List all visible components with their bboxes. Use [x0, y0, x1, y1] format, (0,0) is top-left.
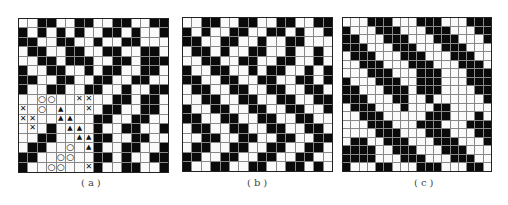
black-cell: [324, 66, 332, 75]
white-cell: [57, 19, 65, 27]
black-cell: [141, 47, 149, 55]
black-cell: [442, 104, 449, 112]
white-cell: [277, 47, 285, 56]
white-cell: [221, 28, 229, 37]
black-cell: [376, 78, 383, 86]
white-cell: [314, 153, 322, 162]
white-cell: [442, 86, 449, 94]
black-cell: [75, 19, 83, 27]
black-cell: [417, 69, 424, 77]
white-cell: [192, 28, 200, 37]
white-cell: [239, 37, 247, 46]
black-cell: [459, 44, 466, 52]
cross-marker-icon: ✕: [19, 105, 27, 114]
white-cell: [417, 44, 424, 52]
black-cell: [103, 28, 111, 36]
white-cell: [343, 121, 350, 129]
black-cell: [57, 28, 65, 36]
white-cell: [417, 112, 424, 120]
black-cell: [249, 162, 257, 171]
black-cell: [376, 69, 383, 77]
white-cell: [467, 27, 474, 35]
black-cell: [368, 61, 375, 69]
white-cell: [47, 153, 55, 162]
black-cell: [202, 18, 210, 27]
black-cell: [324, 28, 332, 37]
black-cell: [192, 85, 200, 94]
white-cell: [113, 153, 121, 162]
white-cell: [286, 114, 294, 123]
black-cell: [267, 114, 275, 123]
white-cell: [94, 28, 102, 36]
white-cell: [160, 105, 168, 114]
black-cell: [85, 85, 93, 93]
white-cell: [426, 155, 433, 163]
white-cell: [103, 143, 111, 152]
black-cell: [426, 112, 433, 120]
white-cell: [286, 66, 294, 75]
white-cell: [75, 143, 83, 152]
white-cell: [351, 163, 358, 171]
white-cell: [28, 57, 36, 65]
triangle-marker-icon: ▲: [85, 134, 93, 142]
white-cell: [475, 104, 482, 112]
white-cell: [221, 95, 229, 104]
white-cell: [360, 18, 367, 26]
white-cell: [122, 115, 130, 123]
black-cell: [360, 95, 367, 103]
white-cell: [183, 124, 191, 133]
black-cell: [401, 44, 408, 52]
black-cell: [475, 69, 482, 77]
black-cell: [368, 104, 375, 112]
black-cell: [296, 162, 304, 171]
white-cell: [239, 114, 247, 123]
black-cell: [258, 114, 266, 123]
black-cell: [296, 153, 304, 162]
white-cell: [475, 138, 482, 146]
black-cell: [192, 47, 200, 56]
white-cell: [239, 153, 247, 162]
black-cell: [150, 95, 158, 104]
white-cell: [211, 143, 219, 152]
white-cell: [459, 104, 466, 112]
white-cell: [28, 85, 36, 93]
white-cell: [393, 61, 400, 69]
white-cell: [305, 28, 313, 37]
white-cell: [239, 76, 247, 85]
black-cell: [202, 134, 210, 143]
black-cell: [150, 47, 158, 55]
white-cell: [47, 76, 55, 84]
black-cell: [160, 19, 168, 27]
white-cell: [150, 115, 158, 123]
black-cell: [94, 85, 102, 93]
black-cell: [393, 129, 400, 137]
white-cell: [75, 66, 83, 74]
white-cell: [132, 66, 140, 74]
white-cell: [475, 95, 482, 103]
white-cell: [150, 38, 158, 46]
black-cell: [314, 47, 322, 56]
white-cell: [409, 129, 416, 137]
black-cell: [258, 37, 266, 46]
circle-marker-icon: ○: [57, 153, 65, 162]
white-cell: [267, 37, 275, 46]
white-cell: [267, 162, 275, 171]
white-cell: [230, 18, 238, 27]
white-cell: [467, 146, 474, 154]
white-cell: [19, 134, 27, 142]
black-cell: [211, 18, 219, 27]
black-cell: [401, 138, 408, 146]
white-cell: [47, 143, 55, 152]
black-cell: [324, 76, 332, 85]
black-cell: [160, 153, 168, 162]
black-cell: [122, 95, 130, 104]
black-cell: [305, 66, 313, 75]
black-cell: [239, 124, 247, 133]
black-cell: [434, 104, 441, 112]
black-cell: [467, 163, 474, 171]
white-cell: [384, 112, 391, 120]
black-cell: [239, 57, 247, 66]
white-cell: [75, 38, 83, 46]
black-cell: [314, 18, 322, 27]
black-cell: [393, 78, 400, 86]
